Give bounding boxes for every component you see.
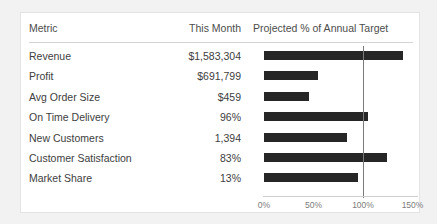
metric-value: 1,394 <box>131 128 241 148</box>
target-reference-line <box>363 46 364 198</box>
axis-tick-label: 0% <box>258 199 270 211</box>
bar <box>264 112 368 121</box>
metric-value: $1,583,304 <box>131 46 241 66</box>
metric-value: 96% <box>131 107 241 127</box>
scorecard-frame: Metric This Month Projected % of Annual … <box>0 0 437 224</box>
metric-value: $691,799 <box>131 66 241 86</box>
bar <box>264 173 358 182</box>
bar <box>264 133 347 142</box>
bar <box>264 51 403 60</box>
bar-track <box>243 87 421 107</box>
header-divider <box>29 42 413 43</box>
axis-tick-label: 50% <box>305 199 322 211</box>
bar <box>264 92 309 101</box>
bar-track <box>243 148 421 168</box>
metric-value: 83% <box>131 148 241 168</box>
axis-tick-label: 100% <box>352 199 374 211</box>
axis-tick-label: 150% <box>402 199 424 211</box>
metric-value: $459 <box>131 87 241 107</box>
bar-track <box>243 66 421 86</box>
scorecard-card: Metric This Month Projected % of Annual … <box>20 12 420 213</box>
bar <box>264 71 318 80</box>
bar-track <box>243 168 421 188</box>
bar-chart: 0%50%100%150% <box>243 46 421 214</box>
bar-track <box>243 107 421 127</box>
column-header-this-month: This Month <box>131 21 241 35</box>
bar-track <box>243 46 421 66</box>
metric-value: 13% <box>131 168 241 188</box>
bar <box>264 153 387 162</box>
column-header-projected-percent: Projected % of Annual Target <box>253 21 418 35</box>
chart-axis-line <box>263 196 418 197</box>
table-header-row: Metric This Month Projected % of Annual … <box>21 21 421 43</box>
bar-track <box>243 128 421 148</box>
